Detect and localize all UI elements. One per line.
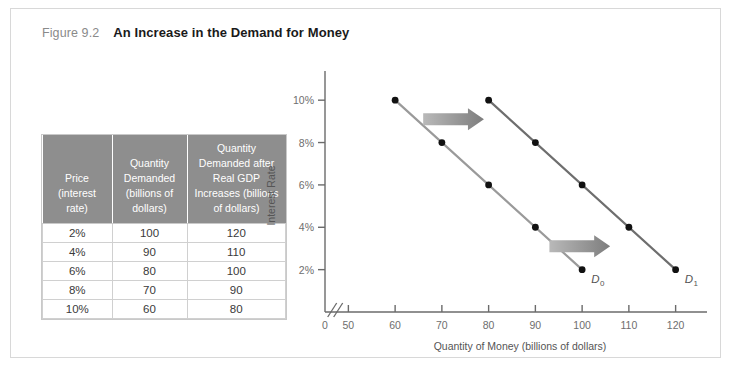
- shift-arrow-upper: [423, 108, 484, 130]
- curve-label-subscript: 1: [693, 279, 698, 288]
- table-row: 10%6080: [43, 299, 286, 318]
- table-row: 8%7090: [43, 280, 286, 299]
- x-tick-label: 120: [667, 319, 685, 331]
- data-point: [392, 97, 399, 104]
- demand-curve-D0: D0: [392, 97, 605, 288]
- data-point: [579, 266, 586, 273]
- cell-quantity: 70: [112, 280, 187, 299]
- data-point: [625, 224, 632, 231]
- header-line: Price: [65, 172, 89, 184]
- x-tick-label: 50: [343, 319, 355, 331]
- cell-price: 8%: [43, 280, 113, 299]
- table-row: 4%90110: [43, 242, 286, 261]
- shift-arrow-lower: [549, 235, 610, 257]
- cell-quantity: 60: [112, 299, 187, 318]
- data-point: [485, 97, 492, 104]
- curve-label-D1: D1: [685, 273, 699, 288]
- x-tick-label: 90: [530, 319, 542, 331]
- table-header-price: Price (interest rate): [43, 135, 113, 223]
- y-tick-label: 6%: [299, 179, 314, 191]
- y-axis-title: Interest Rate: [265, 165, 277, 225]
- figure-frame: Figure 9.2 An Increase in the Demand for…: [10, 8, 721, 358]
- figure-caption: Figure 9.2 An Increase in the Demand for…: [42, 25, 349, 40]
- cell-price: 4%: [43, 242, 113, 261]
- cell-quantity: 90: [112, 242, 187, 261]
- x-tick-label: 110: [621, 319, 638, 331]
- header-line: of dollars): [213, 202, 259, 214]
- data-point: [438, 139, 445, 146]
- demand-schedule-table: Price (interest rate) Quantity Demanded …: [42, 135, 286, 319]
- y-tick-label: 8%: [299, 137, 314, 149]
- data-point: [532, 224, 539, 231]
- cell-price: 6%: [43, 261, 113, 280]
- axis-break-icon: [328, 303, 343, 317]
- header-line: Quantity: [130, 157, 169, 169]
- y-tick-label: 2%: [299, 264, 314, 276]
- table-header-quantity-demanded: Quantity Demanded (billions of dollars): [112, 135, 187, 223]
- curve-label-subscript: 0: [600, 279, 605, 288]
- data-point: [532, 139, 539, 146]
- header-line: dollars): [132, 202, 166, 214]
- figure-title: An Increase in the Demand for Money: [113, 25, 349, 40]
- y-tick-label: 10%: [293, 94, 314, 106]
- demand-curve-chart: 2%4%6%8%10%05060708090100110120Quantity …: [259, 57, 711, 357]
- header-line: Real GDP: [213, 172, 260, 184]
- y-tick-label: 4%: [299, 221, 314, 233]
- x-tick-label: 100: [573, 319, 591, 331]
- header-line: Quantity: [217, 142, 256, 154]
- cell-price: 2%: [43, 223, 113, 242]
- header-line: (interest: [58, 187, 96, 199]
- data-point: [485, 182, 492, 189]
- table-header-row: Price (interest rate) Quantity Demanded …: [43, 135, 286, 223]
- x-tick-label: 70: [436, 319, 448, 331]
- x-axis-title: Quantity of Money (billions of dollars): [434, 340, 607, 352]
- header-line: (billions of: [126, 187, 173, 199]
- figure-number: Figure 9.2: [42, 26, 99, 40]
- data-point: [579, 182, 586, 189]
- x-tick-label: 80: [483, 319, 495, 331]
- table-row: 2%100120: [43, 223, 286, 242]
- table-row: 6%80100: [43, 261, 286, 280]
- x-tick-label: 0: [322, 319, 328, 331]
- data-point: [672, 266, 679, 273]
- x-tick-label: 60: [389, 319, 401, 331]
- table-body: 2%1001204%901106%801008%709010%6080: [43, 223, 286, 318]
- curve-label-D0: D0: [591, 273, 605, 288]
- cell-price: 10%: [43, 299, 113, 318]
- header-line: rate): [66, 202, 88, 214]
- header-line: Demanded: [124, 172, 175, 184]
- cell-quantity: 80: [112, 261, 187, 280]
- demand-curve-D1: D1: [485, 97, 698, 288]
- chart-svg: 2%4%6%8%10%05060708090100110120Quantity …: [259, 57, 711, 357]
- cell-quantity: 100: [112, 223, 187, 242]
